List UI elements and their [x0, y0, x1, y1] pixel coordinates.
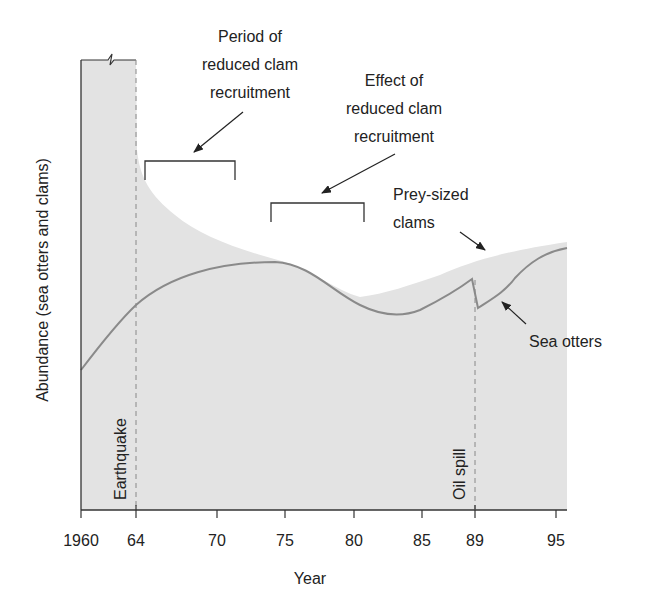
tick-label: 64	[127, 532, 145, 549]
clams-label: Prey-sized	[393, 186, 469, 203]
clams-arrow-icon	[460, 232, 485, 250]
effect-arrow-icon	[322, 154, 395, 193]
tick-label: 80	[345, 532, 363, 549]
effect-label: Effect of	[365, 72, 424, 89]
clams-area	[81, 60, 567, 510]
period-label: recruitment	[210, 84, 291, 101]
x-axis-title: Year	[294, 570, 327, 587]
tick-label: 95	[547, 532, 565, 549]
oil-spill-label: Oil spill	[451, 448, 468, 500]
tick-label: 75	[276, 532, 294, 549]
tick-label: 70	[208, 532, 226, 549]
tick-label: 85	[413, 532, 431, 549]
y-axis-title: Abundance (sea otters and clams)	[34, 158, 51, 402]
tick-label: 89	[466, 532, 484, 549]
clams-label: clams	[393, 214, 435, 231]
effect-bracket	[271, 203, 364, 222]
otters-label: Sea otters	[529, 333, 602, 350]
effect-label: reduced clam	[346, 100, 442, 117]
tick-label: 1960	[63, 532, 99, 549]
effect-label: recruitment	[354, 128, 435, 145]
period-label: Period of	[218, 28, 283, 45]
earthquake-label: Earthquake	[112, 418, 129, 500]
period-bracket	[145, 161, 235, 180]
period-arrow-icon	[194, 112, 243, 152]
period-label: reduced clam	[202, 56, 298, 73]
chart: 1960 64 70 75 80 85 89 95 Year Abundance…	[0, 0, 652, 612]
